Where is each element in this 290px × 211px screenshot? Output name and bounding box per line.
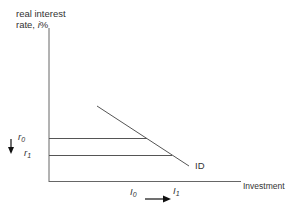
id-curve — [97, 106, 189, 166]
diagram-canvas — [0, 0, 290, 211]
i0-label: I0 — [130, 186, 137, 200]
right-arrow-icon — [145, 196, 171, 203]
id-curve-label: ID — [195, 160, 205, 171]
y-label-suffix: % — [40, 19, 48, 30]
y-axis-label-line2: rate, i% — [16, 19, 48, 30]
r0-label: r0 — [18, 131, 25, 145]
y-axis-label-line1: real interest — [16, 8, 66, 19]
y-label-prefix: rate, — [16, 19, 38, 30]
x-axis-label: Investment — [243, 181, 285, 192]
down-arrow-icon — [8, 139, 14, 154]
r1-label: r1 — [24, 147, 31, 161]
i1-label: I1 — [173, 185, 180, 199]
